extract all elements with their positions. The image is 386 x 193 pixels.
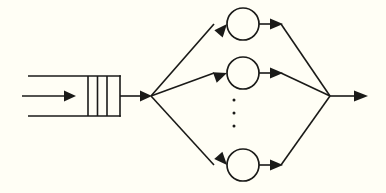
server-middle[interactable] <box>227 57 259 89</box>
queueing-system-diagram <box>0 0 386 193</box>
merge-fanin-links <box>281 24 330 165</box>
diagram-canvas <box>0 0 386 193</box>
arrival-arrow <box>22 91 76 102</box>
server-nodes <box>227 8 259 181</box>
server-bottom[interactable] <box>227 149 259 181</box>
server-top-inbound-arrow-head <box>214 24 227 37</box>
ellipsis-dot-3 <box>233 125 236 128</box>
queue-to-dispatch-arrow-head <box>140 91 152 102</box>
link-bottom-to-merge <box>281 96 330 165</box>
link-dispatch-to-bottom <box>151 96 214 165</box>
server-outbound-stubs <box>259 19 283 171</box>
departure-arrow-head <box>354 91 368 102</box>
server-inbound-arrowheads <box>213 24 227 165</box>
departure-arrow <box>330 91 368 102</box>
queue-to-dispatch-link <box>120 91 152 102</box>
ellipsis-dot-2 <box>233 112 236 115</box>
server-top[interactable] <box>227 8 259 40</box>
dispatch-fanout-links <box>151 24 214 165</box>
vertical-ellipsis-icon <box>233 99 236 128</box>
server-middle-inbound-arrow-head <box>213 72 227 82</box>
server-bottom-inbound-arrow-head <box>214 152 227 165</box>
ellipsis-dot-1 <box>233 99 236 102</box>
arrival-arrow-head <box>64 91 76 102</box>
